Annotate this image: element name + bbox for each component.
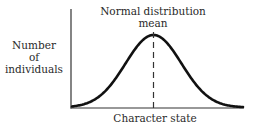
y-axis-label: Number of individuals — [2, 39, 66, 75]
title-line-1: Normal distribution — [98, 5, 208, 17]
chart-title: Normal distribution mean — [98, 5, 208, 29]
y-label-line-2: of — [2, 51, 66, 63]
bell-curve — [72, 35, 243, 107]
normal-distribution-diagram: Normal distribution mean Number of indiv… — [0, 0, 258, 130]
title-line-2-mean: mean — [98, 17, 208, 29]
y-label-line-1: Number — [2, 39, 66, 51]
y-label-line-3: individuals — [2, 63, 66, 75]
x-axis-label: Character state — [100, 112, 210, 124]
